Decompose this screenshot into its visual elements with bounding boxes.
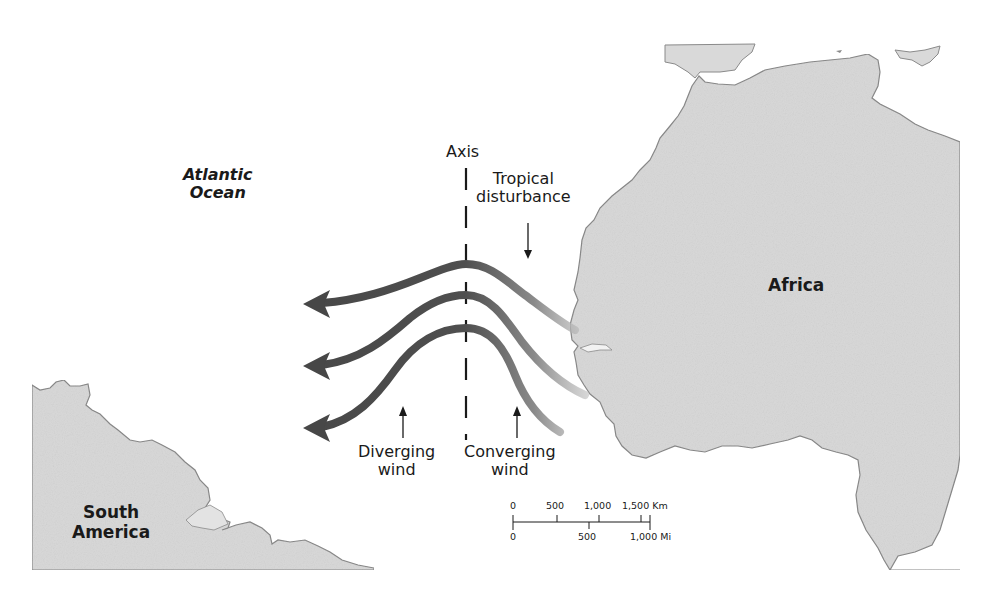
diverging-wind-arrow <box>399 406 407 438</box>
ocean-label-line2: Ocean <box>183 184 252 202</box>
south-america-label: South America <box>72 503 150 542</box>
south-america-label-line2: America <box>72 523 150 543</box>
atlantic-ocean-label: Atlantic Ocean <box>183 166 252 203</box>
africa-label: Africa <box>768 276 824 296</box>
scale-bar <box>513 515 650 530</box>
tropical-disturbance-label: Tropical disturbance <box>476 170 571 207</box>
scale-mi-1000: 1,000 Mi <box>630 531 671 542</box>
scale-km-1000: 1,000 <box>584 500 611 511</box>
iberia-landmass <box>665 44 755 78</box>
converging-wind-arrow <box>513 406 521 438</box>
island <box>836 50 842 53</box>
diverging-label-line1: Diverging <box>358 443 435 461</box>
diverging-label-line2: wind <box>358 461 435 479</box>
wind-arrows <box>322 264 585 432</box>
tropical-disturbance-arrow <box>524 223 532 259</box>
converging-label-line2: wind <box>464 461 556 479</box>
africa-landmass <box>570 54 960 570</box>
tropical-label-line2: disturbance <box>476 188 571 206</box>
diverging-wind-label: Diverging wind <box>358 443 435 480</box>
scale-km-500: 500 <box>546 500 564 511</box>
scale-mi-500: 500 <box>578 531 596 542</box>
tropical-label-line1: Tropical <box>476 170 571 188</box>
scale-mi-0: 0 <box>510 531 516 542</box>
sicily-landmass <box>895 46 940 66</box>
ocean-label-line1: Atlantic <box>183 166 252 184</box>
south-america-label-line1: South <box>72 503 150 523</box>
easterly-wave-map: Atlantic Ocean Axis Tropical disturbance… <box>0 0 992 600</box>
scale-km-1500: 1,500 Km <box>622 500 668 511</box>
converging-label-line1: Converging <box>464 443 556 461</box>
converging-wind-label: Converging wind <box>464 443 556 480</box>
scale-km-0: 0 <box>510 500 516 511</box>
axis-label: Axis <box>446 143 479 161</box>
